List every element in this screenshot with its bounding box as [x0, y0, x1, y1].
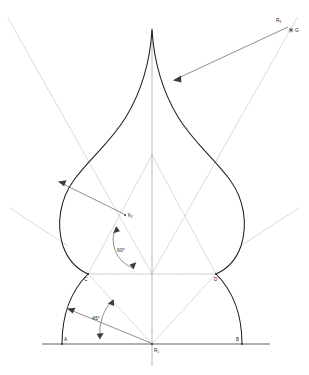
label-angle-45: 45° [92, 315, 100, 321]
ray-lower-right-to-center-dotted [152, 274, 216, 344]
radius-leader-R1 [68, 309, 151, 343]
ray-node-to-right-waist-dotted [152, 155, 216, 274]
angle-45-arrow-end [97, 333, 104, 339]
onion-dome-construction-svg: A B C D R1 K2 R3 G 45° 60° [0, 0, 309, 375]
label-point-G: G [295, 28, 299, 33]
radius-leader-K2 [59, 182, 124, 214]
radius-leader-R1-arrowhead [67, 308, 76, 314]
label-point-B: B [236, 337, 239, 342]
angle-60-arrow-start [113, 226, 120, 233]
label-point-K2: K2 [128, 213, 133, 219]
base-arc-left [62, 274, 88, 344]
ray-lower-left-to-center-dotted [88, 274, 152, 344]
point-marker-G [290, 29, 292, 31]
angle-45-arc [100, 300, 113, 338]
label-point-R3: R3 [276, 18, 281, 24]
label-point-A: A [64, 337, 68, 342]
point-marker-A [61, 343, 63, 345]
label-point-K2-subscript: 2 [131, 215, 133, 219]
construction-lines-group [8, 18, 299, 344]
point-marker-C [87, 273, 89, 275]
dome-profile-left [60, 30, 152, 274]
base-arc-right [216, 274, 242, 344]
point-markers-group [61, 28, 293, 345]
point-marker-D [215, 273, 217, 275]
labels-group: A B C D R1 K2 R3 G 45° 60° [64, 18, 299, 354]
ray-node-to-left-waist-dotted [88, 155, 152, 274]
label-point-R1-subscript: 1 [157, 350, 159, 354]
point-marker-K2 [124, 214, 126, 216]
label-point-R3-subscript: 3 [279, 20, 281, 24]
label-point-R1: R1 [154, 348, 159, 354]
angle-annotations-group [97, 226, 137, 339]
label-angle-60: 60° [117, 247, 125, 253]
label-point-C: C [84, 277, 88, 282]
point-marker-B [241, 343, 243, 345]
drawing-canvas: A B C D R1 K2 R3 G 45° 60° [0, 0, 309, 375]
dome-profile-right [152, 30, 244, 274]
radius-leaders-group [58, 27, 288, 343]
ray-lower-right-stub-dotted [240, 208, 299, 246]
angle-60-arrow-end [130, 262, 137, 269]
radius-leader-R3 [174, 27, 288, 80]
ray-upper-left-dotted [8, 18, 152, 274]
radius-leader-R3-arrowhead [173, 76, 181, 83]
point-marker-R1 [151, 343, 153, 345]
label-point-D: D [214, 277, 218, 282]
